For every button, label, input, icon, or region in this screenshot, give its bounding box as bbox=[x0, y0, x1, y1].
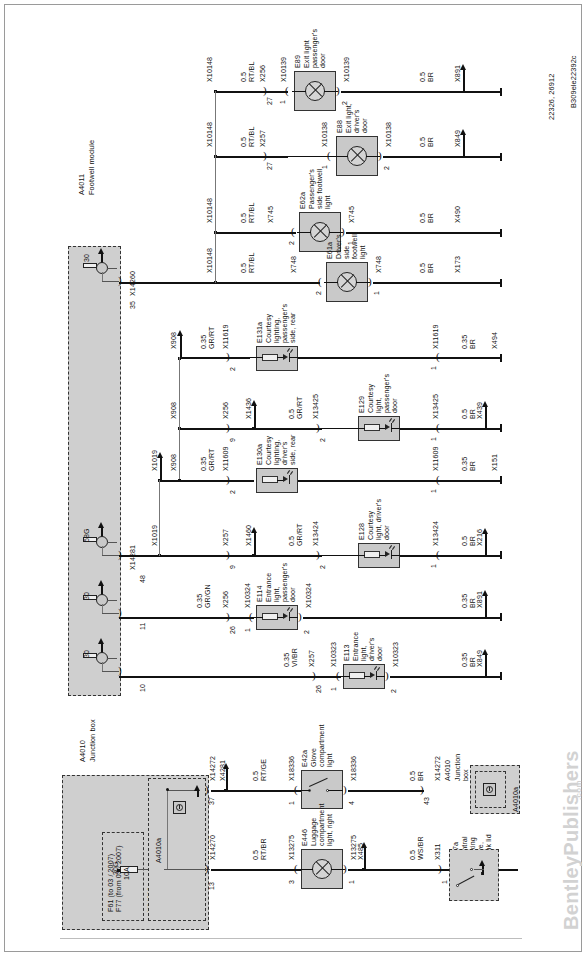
row8-wire-right-label: 0.5 BR bbox=[461, 536, 477, 546]
footwell-pin-terminal-30-c: 30 bbox=[83, 650, 90, 658]
row3-wire-left bbox=[216, 232, 296, 234]
row6-comp-conn-out: X13425 bbox=[432, 394, 440, 419]
row2-comp-conn-out: X10138 bbox=[385, 122, 393, 147]
bottomB-splice-label: X485 bbox=[357, 843, 365, 860]
row1-end bbox=[500, 88, 502, 96]
drawing-number: B309ele22392c bbox=[570, 55, 578, 108]
row5-component-name: Courtesy lighting, passenger's side, rea… bbox=[265, 304, 297, 343]
row4-comp-conn-out: X748 bbox=[375, 256, 383, 273]
row3-end bbox=[500, 229, 502, 237]
row3-pin-left: 2 bbox=[288, 241, 295, 245]
row6-pin-b: 2 bbox=[319, 438, 326, 442]
footwell-module-body bbox=[68, 246, 121, 696]
row8-connector-a: X257 bbox=[222, 529, 230, 546]
bottomA-wire-right bbox=[348, 790, 424, 792]
bottomA-comp-conn-in: X18336 bbox=[288, 756, 296, 781]
row6-comp-pin-out: 1 bbox=[430, 437, 437, 441]
row5-wire-left-label: 0.35 GR/RT bbox=[200, 327, 216, 349]
row1-wire-right bbox=[341, 91, 501, 93]
row2-component-id: E88 bbox=[336, 120, 344, 133]
bottomB-end-conn: X311 bbox=[434, 844, 442, 860]
row3-wire-right-label: 0.5 BR bbox=[419, 213, 435, 223]
row9-component-name: Entrance light, passenger's door bbox=[265, 563, 297, 602]
row7-wire-left bbox=[160, 480, 254, 482]
row6-connector-b: X13425 bbox=[312, 394, 320, 419]
bottomB-end-pin: 1 bbox=[441, 880, 448, 884]
row1-comp-pin-in: 1 bbox=[279, 100, 286, 104]
row6-wire-left bbox=[180, 428, 254, 430]
wiring-diagram-sheet: B309ele22392c 22326, 26912 BentleyPublis… bbox=[0, 0, 586, 956]
row1-wire-left-label: 0.5 RT/BL bbox=[240, 62, 256, 82]
bottomA-comp-pin-in: 1 bbox=[288, 801, 295, 805]
row9-component-id: E114 bbox=[256, 586, 264, 602]
row7-wire-left-label: 0.35 GR/RT bbox=[200, 449, 216, 471]
E128-led-icon bbox=[385, 551, 390, 557]
row8-comp-pin-out: 1 bbox=[430, 564, 437, 568]
footwell-pin-48: 48 bbox=[139, 575, 146, 583]
footwell-pin-35: 35 bbox=[129, 301, 136, 309]
row6-component-id: E129 bbox=[358, 396, 366, 413]
bottomB-wire-left-label: 0.5 RT/BR bbox=[252, 838, 268, 860]
row3-wire-right bbox=[346, 232, 501, 234]
row7-ground-label: X151 bbox=[491, 454, 499, 471]
row2-wire-right bbox=[383, 156, 501, 158]
bottomB-comp-conn-in: X13275 bbox=[288, 835, 296, 860]
bottomA-end-pin: 43 bbox=[423, 797, 430, 805]
row7-wire-right bbox=[298, 480, 501, 482]
row7-wire-right-label: 0.35 BR bbox=[461, 457, 477, 471]
junction-box-name: Junction box bbox=[89, 719, 97, 762]
row1-wire-left bbox=[216, 91, 288, 93]
row4-ground-label: X173 bbox=[454, 256, 462, 273]
row8-bus-label: X1019 bbox=[151, 525, 159, 546]
row9-wire-right-label: 0.35 BR bbox=[461, 594, 477, 608]
M17a-contact-b bbox=[470, 868, 473, 871]
row6-component-name: Courtesy light, passenger's door bbox=[367, 374, 399, 413]
row4-component-id: E61a bbox=[326, 242, 334, 259]
row10-comp-conn-out: X10323 bbox=[392, 642, 400, 667]
row9-comp-conn-in: X10324 bbox=[244, 583, 252, 608]
row4-wire-right bbox=[373, 282, 501, 284]
row9-ground-label: X891 bbox=[476, 591, 484, 608]
row5-wire-right-label: 0.35 BR bbox=[461, 335, 477, 349]
row4-comp-pin-out: 1 bbox=[373, 291, 380, 295]
row1-pin-left: 27 bbox=[266, 97, 273, 105]
row10-wire-left bbox=[119, 676, 341, 678]
row10-end bbox=[500, 672, 502, 680]
row2-end bbox=[500, 153, 502, 161]
bottomB-component-id: E446 bbox=[301, 829, 309, 846]
row2-connector-left: X257 bbox=[259, 130, 267, 147]
row10-ground-label: X849 bbox=[476, 650, 484, 667]
row9-pin-left: 26 bbox=[229, 626, 236, 634]
row9-connector-left: X256 bbox=[222, 591, 230, 608]
bus-x10148 bbox=[215, 91, 216, 283]
row5-ground-label: X494 bbox=[491, 332, 499, 349]
row5-end bbox=[500, 354, 502, 362]
row8-connector-b: X13424 bbox=[312, 521, 320, 546]
row3-bus-label: X10148 bbox=[206, 198, 214, 223]
bottomA-component-name: Glove compartment light bbox=[310, 725, 334, 768]
row7-comp-conn-out: X11609 bbox=[432, 446, 440, 471]
row1-wire-right-label: 0.5 BR bbox=[419, 72, 435, 82]
row2-pin-left: 27 bbox=[266, 162, 273, 170]
footwell-pin-10: 10 bbox=[139, 684, 146, 692]
E130a-element bbox=[262, 476, 278, 483]
row7-comp-pin-out: 1 bbox=[430, 489, 437, 493]
bottomB-module-pin: 13 bbox=[208, 882, 215, 890]
row2-comp-pin-out: 2 bbox=[383, 166, 390, 170]
footwell-module-id: A4011 bbox=[78, 174, 86, 195]
row3-component-name: Passenger's side footwell light bbox=[308, 169, 332, 209]
row7-component-id: E130a bbox=[256, 444, 264, 465]
bottomA-module-pin: 37 bbox=[208, 797, 215, 805]
row8-wire-left bbox=[119, 555, 254, 557]
row10-comp-pin-out: 2 bbox=[390, 689, 397, 693]
watermark: BentleyPublishers bbox=[560, 750, 583, 930]
row6-pin-a: 9 bbox=[229, 438, 236, 442]
bottomA-end-module-name: Junction box bbox=[454, 754, 470, 781]
bottomA-wire-right-label: 0.5 BR bbox=[409, 771, 425, 781]
row10-pin-left: 26 bbox=[315, 685, 322, 693]
row1-component-name: Exit light passenger's door bbox=[303, 29, 327, 68]
fuse-labels: F61 (to 03 / 2007) F77 (from 03 / 2007) bbox=[107, 845, 123, 912]
row2-wire-right-label: 0.5 BR bbox=[419, 137, 435, 147]
bottomA-comp-pin-out: 4 bbox=[348, 801, 355, 805]
row6-ground-label: X439 bbox=[476, 402, 484, 419]
